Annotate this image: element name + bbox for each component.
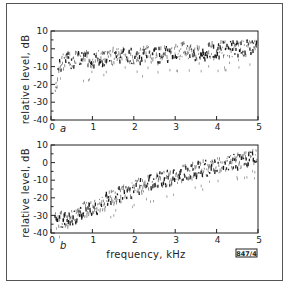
- y-tick-label: 0: [42, 158, 48, 168]
- x-tick-label: 3: [173, 235, 179, 245]
- x-tick-label: 5: [256, 122, 262, 132]
- y-tick-label: -10: [33, 62, 48, 72]
- x-tick-label: 4: [215, 122, 221, 132]
- panel-letter: b: [60, 240, 66, 251]
- y-tick-label: 10: [37, 140, 49, 150]
- y-tick-label: -30: [33, 211, 48, 221]
- y-tick-label: -40: [33, 115, 48, 125]
- data-points: [55, 149, 257, 238]
- y-tick-label: -30: [33, 97, 48, 107]
- data-points: [55, 40, 257, 92]
- panel-b: 100-10-20-30-40012345relative level, dBb: [20, 140, 262, 251]
- x-tick-label: 4: [215, 235, 221, 245]
- y-axis-title: relative level, dB: [20, 35, 31, 125]
- y-axis-title: relative level, dB: [20, 148, 31, 238]
- figure-id-box: 847/4: [236, 249, 257, 258]
- y-tick-label: -20: [33, 193, 48, 203]
- x-tick-label: 1: [91, 235, 97, 245]
- x-tick-label: 0: [49, 235, 55, 245]
- x-tick-label: 2: [132, 235, 138, 245]
- figure-id-label: 847/4: [236, 250, 257, 258]
- x-tick-label: 0: [49, 122, 55, 132]
- y-tick-label: 0: [42, 44, 48, 54]
- y-tick-label: -40: [33, 228, 48, 238]
- panel-a: 100-10-20-30-40012345relative level, dBa: [20, 26, 262, 134]
- y-tick-label: 10: [37, 26, 49, 36]
- y-tick-label: -20: [33, 80, 48, 90]
- frequency-response-chart: 100-10-20-30-40012345relative level, dBa…: [0, 0, 293, 287]
- y-tick-label: -10: [33, 175, 48, 185]
- x-axis-title: frequency, kHz: [106, 249, 185, 260]
- x-tick-label: 3: [173, 122, 179, 132]
- x-tick-label: 5: [256, 235, 262, 245]
- x-tick-label: 2: [132, 122, 138, 132]
- x-tick-label: 1: [91, 122, 97, 132]
- panel-letter: a: [60, 123, 66, 134]
